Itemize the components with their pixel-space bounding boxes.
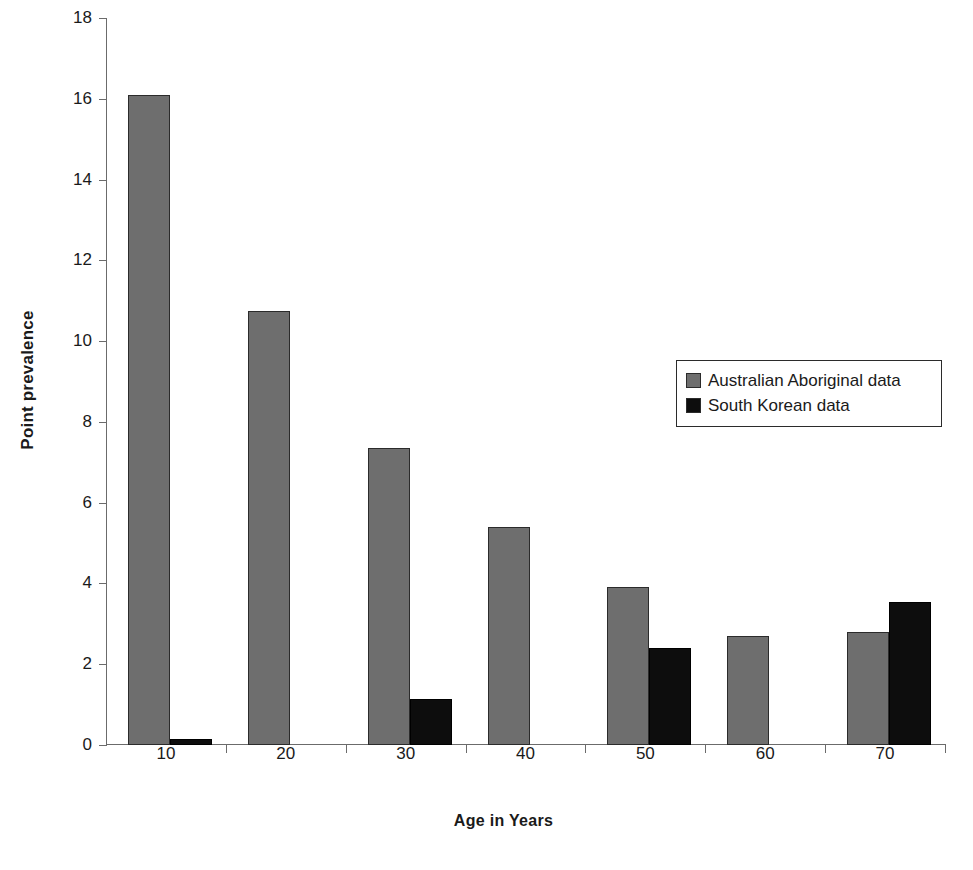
y-axis-tick — [99, 341, 107, 342]
bar-70-series-0 — [847, 632, 889, 745]
x-axis-tick-label: 20 — [276, 744, 295, 764]
bar-50-series-1 — [649, 648, 691, 745]
bar-20-series-0 — [248, 311, 290, 745]
legend-swatch-icon-australian-aboriginal — [686, 373, 701, 388]
y-axis-tick — [99, 583, 107, 584]
y-axis-tick — [99, 260, 107, 261]
y-axis-tick — [99, 99, 107, 100]
y-axis-tick-label: 10 — [73, 331, 92, 351]
x-axis-tick-label: 60 — [756, 744, 775, 764]
y-axis-tick-label: 12 — [73, 250, 92, 270]
y-axis-tick-label: 16 — [73, 89, 92, 109]
bar-30-series-1 — [410, 699, 452, 745]
bar-50-series-0 — [607, 587, 649, 745]
bar-60-series-0 — [727, 636, 769, 745]
y-axis-tick-label: 0 — [83, 735, 92, 755]
y-axis-title: Point prevalence — [0, 0, 56, 760]
x-axis-tick-label: 30 — [396, 744, 415, 764]
legend-label-australian-aboriginal: Australian Aboriginal data — [708, 372, 901, 389]
legend-item-australian-aboriginal: Australian Aboriginal data — [686, 368, 932, 393]
y-axis-tick-label: 18 — [73, 8, 92, 28]
y-axis-tick — [99, 664, 107, 665]
x-axis-tick — [945, 744, 946, 753]
bar-40-series-0 — [488, 527, 530, 745]
chart-legend: Australian Aboriginal data South Korean … — [676, 360, 942, 427]
x-axis-tick-label: 40 — [516, 744, 535, 764]
y-axis-tick — [99, 745, 107, 746]
legend-swatch-icon-south-korean — [686, 398, 701, 413]
x-axis-tick — [346, 744, 347, 753]
legend-item-south-korean: South Korean data — [686, 393, 932, 418]
y-axis-title-text: Point prevalence — [18, 310, 38, 449]
bar-70-series-1 — [889, 602, 931, 745]
y-axis-tick-label: 8 — [83, 412, 92, 432]
x-axis-tick — [226, 744, 227, 753]
y-axis-tick — [99, 180, 107, 181]
legend-label-south-korean: South Korean data — [708, 397, 850, 414]
x-axis-tick — [466, 744, 467, 753]
x-axis-tick-label: 50 — [636, 744, 655, 764]
y-axis-tick-label: 6 — [83, 493, 92, 513]
y-axis-tick-label: 2 — [83, 654, 92, 674]
y-axis-tick — [99, 18, 107, 19]
bar-30-series-0 — [368, 448, 410, 745]
x-axis-tick-label: 70 — [876, 744, 895, 764]
y-axis-tick-label: 14 — [73, 170, 92, 190]
x-axis-tick — [705, 744, 706, 753]
y-axis-tick — [99, 422, 107, 423]
x-axis-tick — [825, 744, 826, 753]
x-axis-title: Age in Years — [56, 812, 951, 830]
y-axis-tick-label: 4 — [83, 573, 92, 593]
x-axis-tick — [585, 744, 586, 753]
x-axis-tick-label: 10 — [156, 744, 175, 764]
bar-10-series-1 — [170, 739, 212, 745]
y-axis-tick — [99, 503, 107, 504]
bar-10-series-0 — [128, 95, 170, 745]
y-axis-line — [106, 18, 107, 745]
chart-page: Point prevalence 024681012141618 1020304… — [0, 0, 973, 870]
